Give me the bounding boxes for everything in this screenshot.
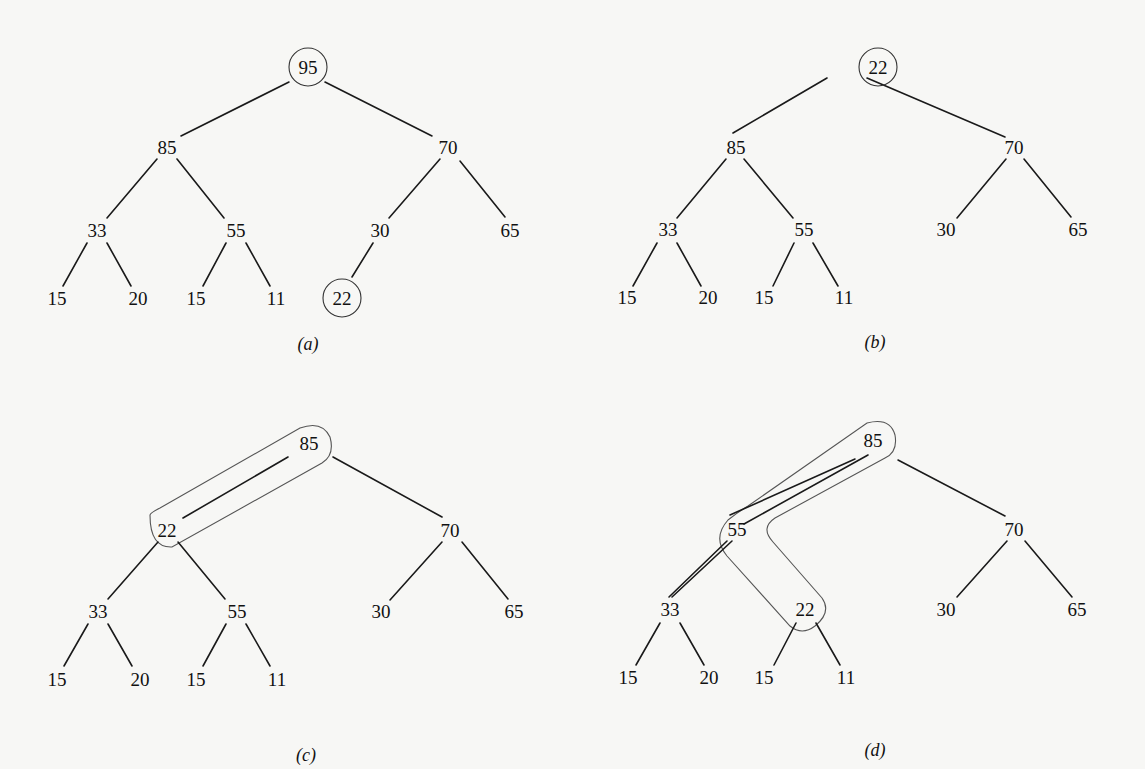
tree-edge: [389, 159, 440, 218]
figure-d: 8555703322306515201511(d): [619, 422, 1087, 762]
diagram-canvas: 958570335530651520151122(a)2285703355306…: [0, 0, 1145, 769]
node-value: 15: [618, 287, 637, 308]
node-value: 55: [227, 220, 246, 241]
tree-node: 85: [864, 430, 883, 451]
tree-node: 30: [937, 219, 956, 240]
node-value: 15: [48, 669, 67, 690]
tree-node: 15: [187, 669, 206, 690]
node-value: 30: [372, 601, 391, 622]
figure-caption: (b): [865, 332, 886, 353]
tree-edge: [677, 159, 726, 218]
node-value: 70: [439, 137, 458, 158]
tree-edge: [816, 623, 840, 665]
figure-caption: (a): [298, 334, 319, 355]
tree-edge: [774, 623, 796, 665]
tree-node: 20: [699, 287, 718, 308]
tree-node: 33: [88, 220, 107, 241]
node-value: 22: [869, 57, 888, 78]
tree-node: 15: [755, 667, 774, 688]
node-value: 22: [796, 599, 815, 620]
heap-diagram: 958570335530651520151122(a)2285703355306…: [0, 0, 1145, 769]
node-value: 55: [795, 219, 814, 240]
node-value: 11: [268, 669, 286, 690]
node-value: 65: [1069, 219, 1088, 240]
tree-node: 15: [619, 667, 638, 688]
node-value: 22: [158, 520, 177, 541]
tree-node: 85: [158, 137, 177, 158]
figure-caption: (d): [865, 740, 886, 761]
tree-edge: [733, 78, 827, 133]
tree-edge: [636, 623, 660, 665]
tree-edge: [957, 159, 1006, 218]
tree-node: 70: [441, 520, 460, 541]
node-value: 11: [267, 288, 285, 309]
tree-edge: [672, 541, 732, 597]
tree-node: 55: [227, 220, 246, 241]
tree-node: 65: [1069, 219, 1088, 240]
node-value: 65: [1068, 599, 1087, 620]
tree-node: 30: [371, 220, 390, 241]
node-value: 15: [619, 667, 638, 688]
tree-node: 55: [228, 601, 247, 622]
node-value: 55: [728, 519, 747, 540]
node-value: 30: [937, 599, 956, 620]
tree-edge: [108, 542, 158, 599]
tree-edge: [633, 243, 657, 286]
tree-edge: [813, 243, 838, 286]
figure-caption: (c): [296, 745, 316, 766]
tree-edge: [178, 542, 225, 599]
tree-edge: [63, 243, 87, 286]
tree-node: 33: [89, 601, 108, 622]
node-value: 55: [228, 601, 247, 622]
tree-edge: [107, 243, 131, 286]
node-value: 15: [48, 288, 67, 309]
tree-node: 11: [835, 287, 853, 308]
tree-node: 15: [48, 669, 67, 690]
tree-edge: [108, 624, 132, 666]
tree-node: 55: [728, 519, 747, 540]
node-value: 15: [755, 287, 774, 308]
tree-edge: [352, 243, 373, 277]
tree-node: 15: [755, 287, 774, 308]
node-value: 33: [659, 219, 678, 240]
node-value: 65: [505, 601, 524, 622]
tree-node: 11: [267, 288, 285, 309]
node-value: 95: [299, 57, 318, 78]
tree-node: 20: [129, 288, 148, 309]
tree-node: 22: [859, 48, 897, 86]
node-value: 70: [441, 520, 460, 541]
tree-node: 65: [501, 220, 520, 241]
node-value: 30: [371, 220, 390, 241]
tree-node: 11: [837, 667, 855, 688]
node-value: 33: [661, 599, 680, 620]
tree-edge: [203, 624, 226, 666]
tree-edge: [677, 243, 701, 286]
node-value: 85: [300, 433, 319, 454]
tree-node: 33: [661, 599, 680, 620]
node-value: 70: [1005, 519, 1024, 540]
figure-c: 8522703355306515201511(c): [48, 425, 524, 766]
tree-edge: [177, 159, 224, 218]
tree-edge: [898, 460, 1005, 516]
tree-node: 22: [158, 520, 177, 541]
tree-edge: [203, 243, 226, 286]
node-value: 15: [187, 288, 206, 309]
tree-node: 11: [268, 669, 286, 690]
figure-b: 2285703355306515201511(b): [618, 48, 1088, 353]
tree-node: 15: [48, 288, 67, 309]
node-value: 85: [158, 137, 177, 158]
tree-node: 55: [795, 219, 814, 240]
node-value: 33: [88, 220, 107, 241]
tree-edge: [181, 82, 289, 136]
node-value: 20: [699, 287, 718, 308]
tree-node: 20: [700, 667, 719, 688]
node-value: 11: [837, 667, 855, 688]
tree-edge: [1024, 159, 1071, 217]
tree-edge: [957, 541, 1007, 597]
tree-edge: [390, 542, 442, 600]
tree-node: 85: [300, 433, 319, 454]
node-value: 11: [835, 287, 853, 308]
tree-node: 65: [505, 601, 524, 622]
tree-node: 70: [1005, 519, 1024, 540]
tree-edge: [462, 542, 508, 599]
